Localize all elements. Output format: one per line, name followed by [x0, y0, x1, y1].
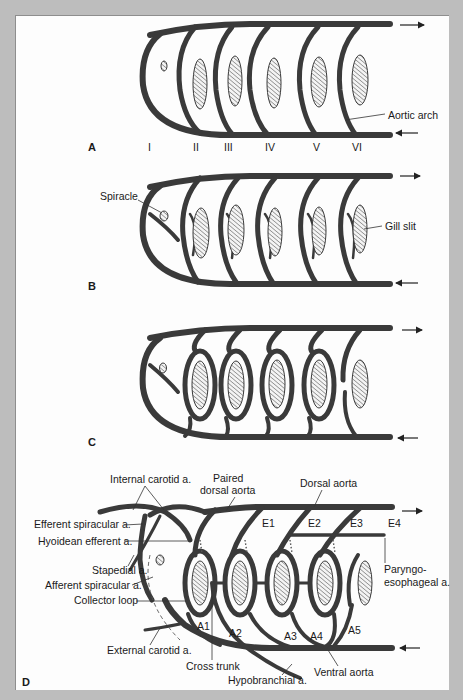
dotted-links: [200, 540, 335, 553]
label-a1: A1: [197, 620, 210, 632]
gill-slit-2: [232, 561, 248, 605]
afferent-branch: [266, 418, 269, 436]
gill-slit-3: [269, 360, 285, 408]
panel-label-c: C: [88, 436, 96, 448]
arch-numeral-iv: IV: [265, 141, 275, 153]
arch-numeral-i: I: [148, 141, 151, 153]
label-dorsal-aorta-paired: dorsal aorta: [200, 484, 256, 496]
label-internal-carotid: Internal carotid a.: [110, 473, 191, 485]
dorsal-aorta: [205, 507, 392, 512]
label-e4: E4: [388, 517, 401, 529]
label-collector-loop: Collector loop: [74, 594, 138, 606]
gill-slit-4: [312, 207, 326, 255]
label-aortic-arch: Aortic arch: [388, 109, 438, 121]
label-hypobranchial: Hypobranchial a.: [228, 674, 307, 686]
label-e1: E1: [262, 517, 275, 529]
panel-label-d: D: [22, 676, 30, 688]
label-e2: E2: [308, 517, 321, 529]
label-paryngo: Paryngo-: [384, 563, 427, 575]
arch-numeral-vi: VI: [352, 141, 362, 153]
label-cross-trunk: Cross trunk: [186, 660, 240, 672]
spiracle: [156, 555, 164, 565]
label-a2: A2: [229, 627, 242, 639]
gill-slit-4: [311, 360, 327, 408]
label-external-carotid: External carotid a.: [107, 644, 192, 656]
gill-slit-3: [267, 58, 281, 108]
label-spiracle: Spiracle: [100, 190, 138, 202]
panel-d: Internal carotid a. Paired dorsal aorta …: [22, 472, 450, 688]
label-efferent-spiracular: Efferent spiracular a.: [34, 518, 131, 530]
branchial-arch-diagram: Aortic arch A I II III IV V VI Spiracle: [0, 0, 463, 700]
gill-slit-1: [192, 361, 208, 409]
afferent-branch: [185, 418, 190, 436]
gill-slit-5: [358, 561, 372, 605]
afferent-branch: [226, 418, 228, 436]
label-a4: A4: [310, 630, 323, 642]
panel-c: C: [88, 328, 422, 448]
gill-slit-2: [228, 205, 244, 255]
arch-numeral-iii: III: [224, 141, 233, 153]
arch-numeral-ii: II: [193, 141, 199, 153]
label-e3: E3: [350, 517, 363, 529]
label-esophageal: esophageal a.: [384, 576, 450, 588]
label-hyoidean-efferent: Hyoidean efferent a.: [38, 535, 132, 547]
label-paired: Paired: [213, 472, 244, 484]
label-dorsal-aorta: Dorsal aorta: [300, 477, 357, 489]
label-a5: A5: [348, 624, 361, 636]
spiracle: [161, 61, 167, 71]
gill-slit-5: [352, 55, 368, 105]
gill-slit-3: [274, 561, 290, 605]
efferent-e2: [232, 508, 262, 555]
panel-a: Aortic arch A I II III IV V VI: [88, 24, 438, 153]
panel-label-b: B: [88, 280, 96, 292]
gill-slit-2: [228, 56, 242, 106]
efferent-e1: [195, 510, 215, 555]
efferent-e4: [320, 508, 360, 555]
efferent-spiracular-a: [140, 516, 152, 600]
gill-slit-2: [228, 361, 244, 409]
label-afferent-spiracular: Afferent spiracular a.: [45, 579, 142, 591]
gill-slit-1: [193, 208, 209, 258]
panel-b: Spiracle Gill slit B: [88, 176, 420, 292]
external-carotid-a: [145, 624, 180, 630]
label-stapedial: Stapedial a.: [92, 564, 147, 576]
gill-slit-1: [193, 59, 207, 109]
gill-slit-1: [192, 561, 208, 605]
collector-loop-partial: [349, 555, 358, 605]
leader-line: [345, 114, 385, 120]
label-gill-slit: Gill slit: [385, 220, 416, 232]
arch-iv: [249, 27, 268, 135]
gill-slit-3: [268, 208, 282, 256]
efferent-e3: [277, 508, 310, 555]
gill-slit-5: [352, 360, 368, 408]
gill-slit-4: [317, 561, 333, 605]
label-a3: A3: [284, 630, 297, 642]
arch-numeral-v: V: [313, 141, 320, 153]
panel-label-a: A: [88, 141, 96, 153]
spiracle: [160, 363, 167, 373]
afferent-a4: [325, 614, 335, 647]
gill-slit-4: [311, 57, 327, 107]
label-ventral-aorta: Ventral aorta: [314, 666, 374, 678]
afferent-branch: [308, 418, 311, 436]
leader-line: [328, 650, 338, 666]
